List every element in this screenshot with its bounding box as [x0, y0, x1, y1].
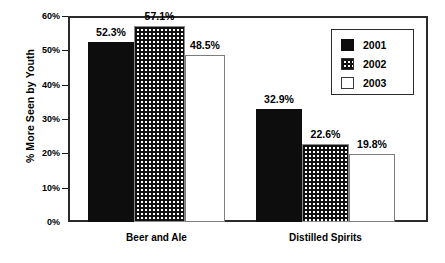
legend-item-2001[interactable]: 2001: [341, 36, 413, 54]
legend-item-2003[interactable]: 2003: [341, 74, 413, 92]
checkered-grid-swatch: [341, 58, 354, 70]
data-label: 32.9%: [264, 93, 294, 105]
y-axis-tick-labels: 0%10%20%30%40%50%60%: [24, 0, 60, 263]
y-tick-label: 30%: [24, 114, 60, 124]
bar-2002-distilled-spirits: [302, 144, 349, 222]
bar-chart: % More Seen by Youth 0%10%20%30%40%50%60…: [0, 0, 445, 263]
legend-label: 2001: [363, 39, 386, 51]
data-label: 19.8%: [357, 138, 387, 150]
bar-2001-beer-and-ale: [88, 42, 134, 222]
solid-black-swatch: [341, 39, 354, 51]
white-outline-swatch: [341, 77, 354, 89]
data-label: 22.6%: [311, 128, 341, 140]
category-label: Distilled Spirits: [289, 232, 362, 243]
y-tick-label: 60%: [24, 11, 60, 21]
y-tick-label: 40%: [24, 80, 60, 90]
y-tick-label: 0%: [24, 217, 60, 227]
chart-legend: 200120022003: [331, 29, 414, 95]
y-tick-label: 10%: [24, 183, 60, 193]
data-label: 52.3%: [96, 26, 126, 38]
bar-2003-distilled-spirits: [349, 154, 395, 222]
data-label: 57.1%: [145, 10, 175, 22]
legend-label: 2002: [363, 58, 386, 70]
y-tick-label: 20%: [24, 148, 60, 158]
category-label: Beer and Ale: [126, 232, 187, 243]
bar-2003-beer-and-ale: [185, 55, 225, 222]
data-label: 48.5%: [190, 39, 220, 51]
bar-2001-distilled-spirits: [256, 109, 302, 222]
legend-label: 2003: [363, 77, 386, 89]
legend-item-2002[interactable]: 2002: [341, 55, 413, 73]
bar-2002-beer-and-ale: [134, 26, 185, 222]
y-tick-label: 50%: [24, 45, 60, 55]
